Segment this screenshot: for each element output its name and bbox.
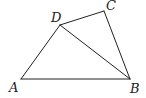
- label-point-c: C: [106, 0, 116, 13]
- label-point-d: D: [50, 10, 62, 25]
- segment-ad: [21, 25, 60, 79]
- label-point-a: A: [8, 80, 18, 95]
- label-point-b: B: [129, 81, 140, 96]
- segment-dc: [60, 11, 104, 25]
- geometry-diagram: A B C D: [0, 0, 146, 98]
